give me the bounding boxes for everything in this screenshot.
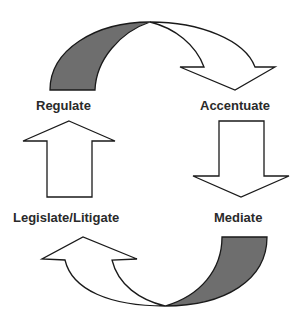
node-accentuate: Accentuate (200, 98, 270, 113)
arrow-regulate-to-accentuate (50, 22, 275, 90)
node-regulate: Regulate (36, 98, 91, 113)
node-mediate: Mediate (214, 210, 262, 225)
arrow-accentuate-to-mediate (193, 121, 289, 197)
cycle-diagram (0, 0, 307, 327)
arrow-legislate-to-regulate (23, 121, 115, 197)
node-legislate-litigate: Legislate/Litigate (13, 210, 119, 225)
arrow-mediate-to-legislate (42, 237, 267, 306)
